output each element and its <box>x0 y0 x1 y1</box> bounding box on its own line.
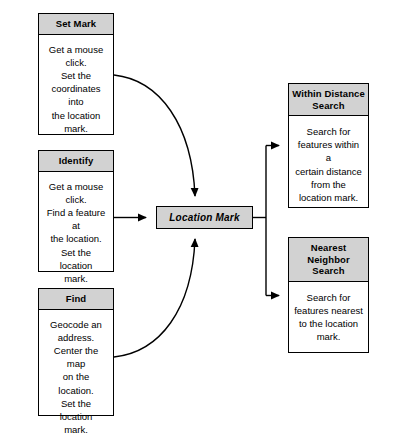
node-identify-body: Get a mouse click. Find a feature at the… <box>39 172 113 290</box>
node-nearest-neighbor-search[interactable]: Nearest Neighbor Search Search for featu… <box>288 237 369 353</box>
node-set-mark-body: Get a mouse click. Set the coordinates i… <box>39 35 113 139</box>
node-find-header: Find <box>39 289 113 310</box>
node-find[interactable]: Find Geocode an address. Center the map … <box>38 288 114 416</box>
node-find-body: Geocode an address. Center the map on th… <box>39 310 113 437</box>
node-location-mark[interactable]: Location Mark <box>156 206 253 229</box>
node-nearest-neighbor-search-body: Search for features nearest to the locat… <box>289 282 368 353</box>
node-within-distance-search-body: Search for features within a certain dis… <box>289 116 368 208</box>
connector-set-mark-to-location-mark <box>114 75 195 196</box>
node-within-distance-search[interactable]: Within Distance Search Search for featur… <box>288 83 369 208</box>
node-within-distance-search-header: Within Distance Search <box>289 84 368 116</box>
node-set-mark[interactable]: Set Mark Get a mouse click. Set the coor… <box>38 13 114 135</box>
node-identify[interactable]: Identify Get a mouse click. Find a featu… <box>38 150 114 272</box>
connector-find-to-location-mark <box>114 239 195 357</box>
node-identify-header: Identify <box>39 151 113 172</box>
node-set-mark-header: Set Mark <box>39 14 113 35</box>
node-nearest-neighbor-search-header: Nearest Neighbor Search <box>289 238 368 282</box>
